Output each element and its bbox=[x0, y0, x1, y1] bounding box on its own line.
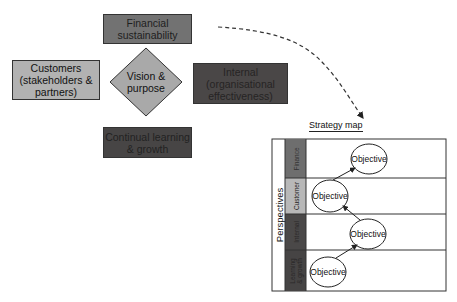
row-label-internal: Internal bbox=[292, 221, 299, 243]
row-label-learning: Learning & growth bbox=[289, 258, 303, 284]
diagram-graphics bbox=[0, 0, 457, 302]
strategy-map-title: Strategy map bbox=[309, 120, 363, 132]
learning-label-line2: & growth bbox=[296, 258, 303, 284]
dashed-connector-arrow bbox=[218, 27, 363, 118]
vision-purpose-label: Vision & purpose bbox=[116, 70, 176, 94]
row-label-customer: Customer bbox=[292, 182, 299, 210]
learning-label-line1: Learning bbox=[289, 258, 296, 284]
row-label-finance: Finance bbox=[292, 147, 299, 170]
objective-internal: Objective bbox=[350, 229, 385, 239]
objective-customer: Objective bbox=[312, 191, 347, 201]
perspectives-label: Perspectives bbox=[274, 188, 285, 242]
objective-learning: Objective bbox=[310, 267, 345, 277]
vision-line1: Vision & bbox=[116, 70, 176, 82]
vision-line2: purpose bbox=[116, 82, 176, 94]
objective-finance: Objective bbox=[351, 154, 386, 164]
